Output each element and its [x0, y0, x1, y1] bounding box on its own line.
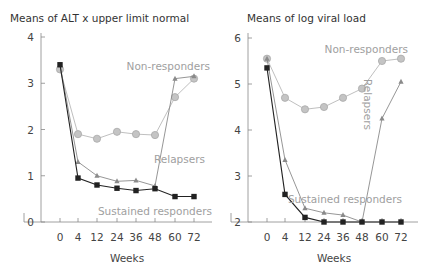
x-axis-label: Weeks: [110, 252, 144, 264]
data-point-sustained-responders: [133, 188, 138, 193]
y-tick-label: 3: [27, 77, 34, 89]
data-point-relapsers: [133, 177, 138, 182]
data-point-relapsers: [302, 205, 307, 210]
x-tick-label: 4: [282, 231, 289, 243]
data-point-sustained-responders: [172, 194, 177, 199]
data-point-non-responders: [301, 106, 308, 113]
x-tick-label: 4: [75, 231, 82, 243]
x-tick-label: 12: [90, 231, 103, 243]
series-label-sustained-responders: Sustained responders: [288, 193, 402, 205]
data-point-non-responders: [397, 55, 404, 62]
y-tick-label: 5: [234, 78, 241, 90]
data-point-sustained-responders: [302, 215, 307, 220]
x-tick-label: 48: [148, 231, 161, 243]
data-point-relapsers: [94, 173, 99, 178]
series-line-non-responders: [267, 59, 401, 110]
data-point-relapsers: [379, 116, 384, 121]
y-tick-label: 4: [234, 124, 241, 136]
chart-title: Means of ALT x upper limit normal: [10, 12, 189, 24]
x-tick-label: 0: [57, 231, 64, 243]
x-tick-label: 60: [375, 231, 388, 243]
data-point-sustained-responders: [398, 219, 403, 224]
data-point-non-responders: [281, 94, 288, 101]
y-tick-label: 2: [27, 124, 34, 136]
data-point-non-responders: [171, 94, 178, 101]
x-tick-label: 0: [264, 231, 271, 243]
data-point-sustained-responders: [264, 65, 269, 70]
data-point-sustained-responders: [340, 219, 345, 224]
series-label-sustained-responders: Sustained responders: [98, 205, 212, 217]
viral-load-chart: Means of log viral load 23456 0412243648…: [231, 12, 418, 264]
data-point-sustained-responders: [282, 192, 287, 197]
x-tick-label: 72: [187, 231, 200, 243]
data-point-non-responders: [339, 94, 346, 101]
alt-chart: Means of ALT x upper limit normal 01234 …: [10, 12, 212, 264]
data-point-sustained-responders: [57, 62, 62, 67]
data-point-sustained-responders: [379, 219, 384, 224]
data-point-sustained-responders: [321, 219, 326, 224]
series-label-non-responders: Non-responders: [325, 43, 408, 55]
data-point-sustained-responders: [114, 186, 119, 191]
data-point-non-responders: [132, 131, 139, 138]
chart-title: Means of log viral load: [247, 12, 366, 24]
data-point-non-responders: [151, 131, 158, 138]
y-tick-label: 6: [234, 32, 241, 44]
series-label-non-responders: Non-responders: [127, 60, 210, 72]
data-point-relapsers: [398, 79, 403, 84]
data-point-non-responders: [74, 131, 81, 138]
charts-figure: Means of ALT x upper limit normal 01234 …: [0, 0, 438, 266]
series-label-relapsers: Relapsers: [362, 79, 374, 130]
data-point-sustained-responders: [152, 186, 157, 191]
x-tick-label: 60: [168, 231, 181, 243]
data-point-non-responders: [320, 103, 327, 110]
data-point-sustained-responders: [191, 194, 196, 199]
series-label-relapsers: Relapsers: [154, 153, 205, 165]
x-tick-label: 24: [110, 231, 124, 243]
series-line-relapsers: [60, 65, 194, 186]
data-point-sustained-responders: [75, 175, 80, 180]
data-point-non-responders: [93, 135, 100, 142]
x-axis-label: Weeks: [317, 252, 351, 264]
data-point-sustained-responders: [359, 219, 364, 224]
data-point-non-responders: [378, 57, 385, 64]
y-tick-label: 3: [234, 170, 241, 182]
y-tick-label: 2: [234, 216, 241, 228]
y-tick-label: 1: [27, 170, 34, 182]
data-point-relapsers: [282, 157, 287, 162]
x-tick-label: 12: [298, 231, 311, 243]
x-tick-label: 72: [394, 231, 407, 243]
x-tick-label: 24: [317, 231, 331, 243]
x-tick-label: 36: [336, 231, 350, 243]
data-point-sustained-responders: [94, 182, 99, 187]
x-tick-label: 48: [355, 231, 368, 243]
y-tick-label: 0: [27, 216, 34, 228]
data-point-non-responders: [113, 128, 120, 135]
x-tick-label: 36: [129, 231, 143, 243]
y-tick-label: 4: [27, 31, 34, 43]
